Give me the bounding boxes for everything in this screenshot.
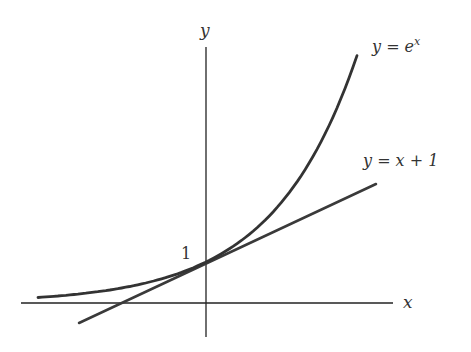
exponential-curve	[38, 56, 357, 298]
line-label: y = x + 1	[362, 151, 438, 170]
tangent-line	[79, 184, 376, 323]
y-axis-label: y	[199, 20, 210, 40]
exp-curve-label: y = ex	[371, 35, 421, 56]
intercept-label: 1	[181, 244, 191, 263]
x-axis-label: x	[403, 292, 413, 312]
figure: y x 1 y = ex y = x + 1	[0, 0, 471, 352]
